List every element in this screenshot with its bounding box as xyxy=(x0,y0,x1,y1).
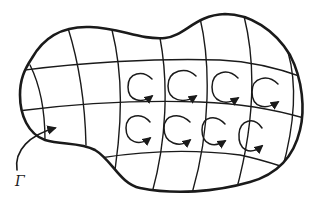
stokes-surface-diagram xyxy=(0,0,311,218)
boundary-label-gamma: Γ xyxy=(15,173,25,189)
boundary-curve xyxy=(20,14,303,192)
circulation-loops xyxy=(126,71,278,151)
grid-lines xyxy=(10,16,310,200)
